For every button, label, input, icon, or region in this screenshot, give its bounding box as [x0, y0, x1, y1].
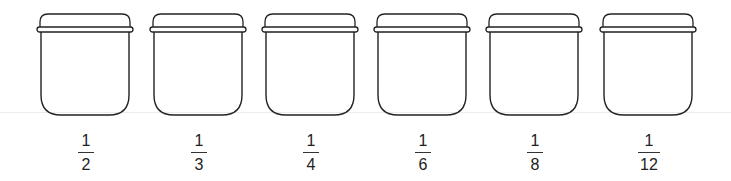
- jar-1: 1 2 2: [36, 0, 136, 181]
- fraction-numerator: 1: [307, 132, 316, 149]
- fraction-bar: 12: [638, 152, 660, 153]
- jar-3: 1 4 4: [261, 0, 361, 181]
- jar-icon: [373, 10, 473, 120]
- fraction-numerator: 1: [645, 132, 654, 149]
- fraction-bar: 2: [78, 152, 94, 153]
- fraction-numerator: 1: [82, 132, 91, 149]
- fraction-bar: 4: [303, 152, 319, 153]
- fraction-bar: 8: [527, 152, 543, 153]
- fraction-numerator: 1: [531, 132, 540, 149]
- jar-icon: [599, 10, 699, 120]
- fraction-denominator: 8: [531, 156, 540, 173]
- fraction-bar: 6: [415, 152, 431, 153]
- fraction-label: 1 3 3: [149, 132, 249, 173]
- fraction-label: 1 6 6: [373, 132, 473, 173]
- jar-icon: [485, 10, 585, 120]
- jar-4: 1 6 6: [373, 0, 473, 181]
- fraction-label: 1 4 4: [261, 132, 361, 173]
- fraction-label: 1 2 2: [36, 132, 136, 173]
- fraction-label: 1 8 8: [485, 132, 585, 173]
- fraction-denominator: 3: [195, 156, 204, 173]
- fraction-bar: 3: [191, 152, 207, 153]
- jar-6: 1 12 12: [599, 0, 699, 181]
- fraction-denominator: 2: [82, 156, 91, 173]
- fraction-numerator: 1: [195, 132, 204, 149]
- jar-2: 1 3 3: [149, 0, 249, 181]
- jar-icon: [261, 10, 361, 120]
- jar-icon: [36, 10, 136, 120]
- jar-icon: [149, 10, 249, 120]
- jar-5: 1 8 8: [485, 0, 585, 181]
- fraction-denominator: 6: [419, 156, 428, 173]
- fraction-numerator: 1: [419, 132, 428, 149]
- fraction-denominator: 12: [640, 156, 658, 173]
- fraction-denominator: 4: [307, 156, 316, 173]
- fraction-label: 1 12 12: [599, 132, 699, 173]
